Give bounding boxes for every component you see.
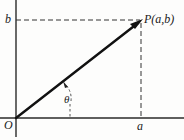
- angle-arc-arrowhead: [63, 81, 68, 88]
- x-value-label: a: [137, 120, 143, 132]
- ray-op: [16, 23, 138, 118]
- coordinate-diagram: b P(a,b) θ O a: [0, 0, 184, 140]
- point-label-p: P(a,b): [144, 13, 174, 25]
- origin-label: O: [4, 119, 13, 131]
- y-value-label: b: [5, 13, 11, 25]
- angle-label-theta: θ: [64, 94, 69, 105]
